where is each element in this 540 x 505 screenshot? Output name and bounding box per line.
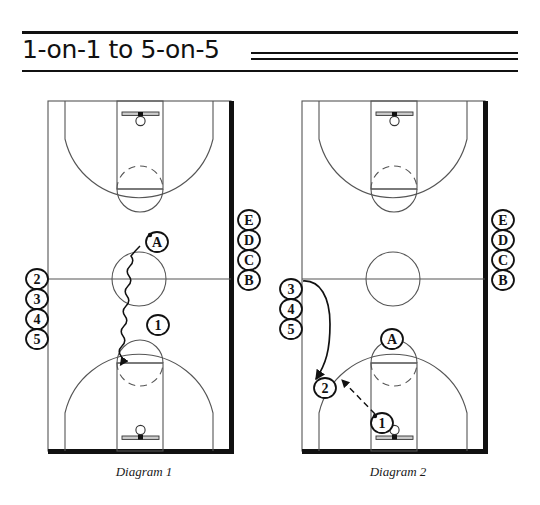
queue-token-5[interactable]: 5 — [280, 319, 302, 339]
thick-right-sideline — [229, 101, 234, 453]
queue-token-4[interactable]: 4 — [26, 309, 48, 329]
player-token-1[interactable]: 1 — [147, 315, 169, 335]
queue-token-E[interactable]: E — [238, 210, 260, 230]
page-header: 1-on-1 to 5-on-5 — [0, 0, 540, 86]
rim-connector-top — [392, 112, 397, 117]
rim-top — [390, 116, 399, 125]
header-rule-middle-lower — [251, 58, 518, 60]
diagram-1-caption: Diagram 1 — [18, 464, 270, 480]
queue-token-2[interactable]: 2 — [26, 269, 48, 289]
queue-label-4: 4 — [34, 312, 41, 327]
queue-label-5: 5 — [34, 332, 41, 347]
player-token-A[interactable]: A — [381, 329, 403, 349]
queue-label-C: C — [244, 253, 254, 268]
court-outline — [48, 101, 234, 454]
rim-connector-bottom — [138, 435, 143, 440]
diagram-2-court: A 2 1 3 4 5 — [272, 92, 524, 464]
diagram-2-caption: Diagram 2 — [272, 464, 524, 480]
queue-token-C[interactable]: C — [238, 250, 260, 270]
left-queue-diagram-2: 3 4 5 — [280, 279, 302, 339]
queue-label-B: B — [498, 273, 507, 288]
queue-label-D: D — [244, 233, 254, 248]
diagram-1-court: A 1 2 3 4 5 — [18, 92, 270, 464]
queue-token-B[interactable]: B — [492, 270, 514, 290]
queue-label-E: E — [244, 213, 253, 228]
queue-label-5: 5 — [288, 322, 295, 337]
thick-right-sideline — [483, 101, 488, 453]
header-rule-middle-upper — [251, 52, 518, 54]
player-label-2: 2 — [322, 381, 329, 396]
queue-token-C[interactable]: C — [492, 250, 514, 270]
player-label-A: A — [387, 332, 398, 347]
right-queue-diagram-1: E D C B — [238, 210, 260, 290]
queue-token-E[interactable]: E — [492, 210, 514, 230]
player-token-A[interactable]: A — [146, 232, 168, 252]
rim-top — [136, 116, 145, 125]
queue-label-C: C — [498, 253, 508, 268]
queue-token-D[interactable]: D — [492, 230, 514, 250]
queue-label-4: 4 — [288, 302, 295, 317]
rim-connector-bottom — [392, 435, 397, 440]
queue-token-B[interactable]: B — [238, 270, 260, 290]
queue-token-3[interactable]: 3 — [26, 289, 48, 309]
header-rule-bottom — [22, 70, 518, 72]
queue-label-3: 3 — [288, 282, 295, 297]
queue-token-4[interactable]: 4 — [280, 299, 302, 319]
queue-label-2: 2 — [34, 272, 41, 287]
player-label-1: 1 — [155, 318, 162, 333]
player-token-1[interactable]: 1 — [371, 413, 393, 433]
queue-token-3[interactable]: 3 — [280, 279, 302, 299]
court-outline — [302, 101, 488, 454]
diagram-1: A 1 2 3 4 5 — [18, 92, 270, 492]
rim-bottom — [136, 425, 145, 434]
queue-token-5[interactable]: 5 — [26, 329, 48, 349]
rim-connector-top — [138, 112, 143, 117]
queue-label-3: 3 — [34, 292, 41, 307]
queue-label-D: D — [498, 233, 508, 248]
diagram-2: A 2 1 3 4 5 — [272, 92, 524, 492]
queue-token-D[interactable]: D — [238, 230, 260, 250]
player-label-1: 1 — [379, 416, 386, 431]
player-label-A: A — [152, 235, 163, 250]
right-queue-diagram-2: E D C B — [492, 210, 514, 290]
page-title: 1-on-1 to 5-on-5 — [22, 33, 220, 67]
left-queue-diagram-1: 2 3 4 5 — [26, 269, 48, 349]
ball-marker-1 — [373, 414, 377, 418]
queue-label-E: E — [498, 213, 507, 228]
queue-label-B: B — [244, 273, 253, 288]
player-token-2[interactable]: 2 — [314, 378, 336, 398]
